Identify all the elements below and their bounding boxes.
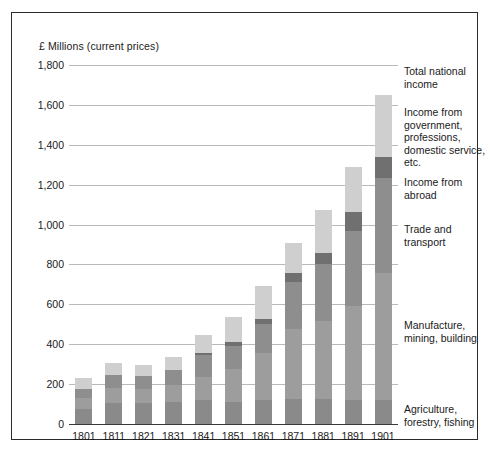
y-axis-tick-label: 400	[46, 338, 64, 350]
bar-segment	[285, 329, 302, 399]
x-axis-tick-label: 1901	[371, 430, 394, 442]
x-axis-tick-label: 1891	[341, 430, 364, 442]
bar-segment	[105, 403, 122, 424]
bar-segment	[165, 357, 182, 370]
y-axis-tick-label: 600	[46, 298, 64, 310]
bar-1861	[255, 286, 272, 424]
bar-segment	[105, 388, 122, 403]
bar-segment	[75, 398, 92, 409]
bar-segment	[375, 157, 392, 178]
bar-segment	[225, 402, 242, 424]
bar-segment	[315, 253, 332, 265]
x-axis-tick-label: 1831	[162, 430, 185, 442]
bar-segment	[135, 403, 152, 424]
x-axis-tick-label: 1871	[282, 430, 305, 442]
bar-segment	[195, 335, 212, 353]
legend-entry-0: Total national income	[404, 65, 490, 90]
legend-entry-3: Trade and transport	[404, 223, 490, 248]
bar-segment	[75, 409, 92, 424]
bar-1901	[375, 95, 392, 424]
bar-segment	[225, 369, 242, 402]
bar-segment	[255, 324, 272, 353]
bar-segment	[255, 400, 272, 424]
gridline	[69, 65, 398, 66]
legend-entry-5: Agriculture, forestry, fishing	[404, 403, 490, 428]
bar-segment	[195, 400, 212, 424]
x-axis-tick-label: 1881	[312, 430, 335, 442]
legend-entry-2: Income from abroad	[404, 176, 490, 201]
y-axis-tick-label: 0	[58, 418, 64, 430]
bar-segment	[375, 95, 392, 157]
bar-segment	[165, 370, 182, 385]
gridline	[69, 105, 398, 106]
bar-segment	[345, 231, 362, 307]
bar-segment	[285, 273, 302, 282]
bar-1801	[75, 378, 92, 424]
bar-1811	[105, 363, 122, 424]
bar-1841	[195, 335, 212, 424]
chart-legend: Total national incomeIncome from governm…	[404, 65, 488, 424]
bar-segment	[105, 375, 122, 388]
bar-segment	[285, 399, 302, 424]
bar-segment	[375, 400, 392, 424]
legend-entry-4: Manufacture, mining, building	[404, 319, 490, 344]
bar-segment	[135, 389, 152, 403]
bar-segment	[225, 346, 242, 369]
y-axis-labels: 02004006008001,0001,2001,4001,6001,800	[28, 65, 64, 424]
bar-segment	[285, 282, 302, 329]
bar-segment	[135, 365, 152, 376]
axis-title: £ Millions (current prices)	[39, 40, 159, 52]
bar-segment	[375, 273, 392, 400]
y-axis-tick-label: 800	[46, 258, 64, 270]
bar-segment	[345, 400, 362, 424]
x-axis-tick-label: 1851	[222, 430, 245, 442]
bar-segment	[285, 243, 302, 274]
bar-segment	[255, 286, 272, 319]
legend-entry-1: Income from government, professions, dom…	[404, 106, 490, 169]
bar-segment	[135, 376, 152, 389]
bar-segment	[345, 306, 362, 400]
bar-segment	[315, 399, 332, 424]
bar-segment	[165, 385, 182, 402]
bar-1821	[135, 365, 152, 424]
bar-segment	[345, 212, 362, 231]
bar-1871	[285, 243, 302, 424]
bar-1891	[345, 167, 362, 424]
chart-figure: £ Millions (current prices) 020040060080…	[0, 0, 490, 454]
chart-frame: £ Millions (current prices) 020040060080…	[11, 12, 478, 440]
gridline	[69, 424, 398, 425]
x-axis-tick-label: 1841	[192, 430, 215, 442]
bar-segment	[255, 353, 272, 400]
bar-segment	[315, 210, 332, 253]
bar-segment	[105, 363, 122, 375]
bar-segment	[75, 389, 92, 398]
bar-segment	[195, 377, 212, 400]
bar-1831	[165, 357, 182, 424]
bar-segment	[225, 317, 242, 342]
bar-segment	[345, 167, 362, 212]
bar-segment	[165, 402, 182, 424]
y-axis-tick-label: 200	[46, 378, 64, 390]
bar-1881	[315, 210, 332, 424]
bar-1851	[225, 317, 242, 424]
y-axis-tick-label: 1,600	[38, 99, 64, 111]
bar-segment	[195, 355, 212, 377]
x-axis-tick-label: 1801	[72, 430, 95, 442]
x-axis-tick-label: 1811	[103, 430, 126, 442]
x-axis-tick-label: 1821	[132, 430, 155, 442]
y-axis-tick-label: 1,000	[38, 219, 64, 231]
y-axis-tick-label: 1,200	[38, 179, 64, 191]
y-axis-tick-label: 1,400	[38, 139, 64, 151]
x-axis-tick-label: 1861	[252, 430, 275, 442]
bar-segment	[315, 264, 332, 321]
bar-segment	[75, 378, 92, 389]
y-axis-tick-label: 1,800	[38, 59, 64, 71]
gridline	[69, 145, 398, 146]
bar-segment	[315, 321, 332, 399]
plot-area	[69, 65, 398, 424]
bar-segment	[375, 178, 392, 274]
